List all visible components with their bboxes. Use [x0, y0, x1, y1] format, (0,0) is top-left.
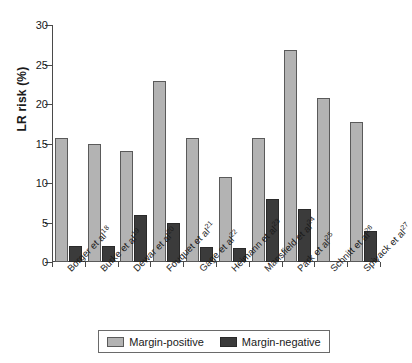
y-tick-label: 10 [36, 178, 48, 189]
chart-legend: Margin-positiveMargin-negative [98, 330, 330, 353]
legend-label: Margin-negative [242, 336, 321, 348]
legend-swatch-neg [220, 337, 237, 347]
y-tick-label: 30 [36, 20, 48, 31]
legend-item: Margin-negative [220, 336, 321, 348]
legend-swatch-pos [107, 337, 124, 347]
bar-group [314, 25, 347, 262]
legend-item: Margin-positive [107, 336, 204, 348]
x-axis-labels: Borger et al18Burke et al19Dewar et al20… [52, 265, 380, 327]
y-tick-label: 25 [36, 59, 48, 70]
bar-group [347, 25, 380, 262]
bar-positive [55, 138, 68, 262]
y-tick-label: 15 [36, 138, 48, 149]
bar-group [216, 25, 249, 262]
y-tick-label: 0 [42, 257, 48, 268]
y-tick-label: 20 [36, 99, 48, 110]
legend-label: Margin-positive [129, 336, 204, 348]
bar-group [52, 25, 85, 262]
y-axis-label: LR risk (%) [15, 44, 29, 154]
x-tick-mark [380, 262, 381, 267]
y-tick-label: 5 [42, 217, 48, 228]
